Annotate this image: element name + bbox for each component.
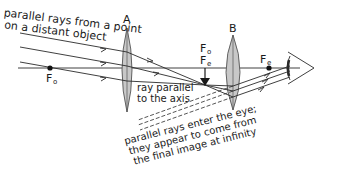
ray-parallel-caption: ray parallel to the axis <box>137 82 194 104</box>
focus-eyepiece-label: F e <box>260 53 271 67</box>
lens-b-label: B <box>229 22 237 35</box>
svg-text:to the axis: to the axis <box>137 93 190 104</box>
svg-text:ray parallel: ray parallel <box>137 82 194 93</box>
lens-b <box>226 35 240 110</box>
svg-text:F: F <box>260 53 266 66</box>
focus-objective-label: F o <box>46 72 57 86</box>
svg-text:o: o <box>207 48 211 56</box>
focus-image-label: F o F e <box>200 42 211 68</box>
telescope-ray-diagram: parallel rays from a point on a distant … <box>0 0 339 180</box>
top-left-caption: parallel rays from a point on a distant … <box>2 6 143 48</box>
svg-text:e: e <box>267 59 271 67</box>
svg-text:e: e <box>207 60 211 68</box>
svg-text:F: F <box>46 72 52 85</box>
svg-text:F: F <box>200 54 206 67</box>
emerging-rays <box>233 66 290 97</box>
incoming-rays <box>20 33 127 81</box>
lens-a <box>122 28 132 112</box>
bottom-caption: parallel rays enter the eye; they appear… <box>123 103 263 168</box>
svg-text:o: o <box>53 78 57 86</box>
lens-a-label: A <box>123 13 131 26</box>
focus-objective-dot <box>47 65 52 70</box>
